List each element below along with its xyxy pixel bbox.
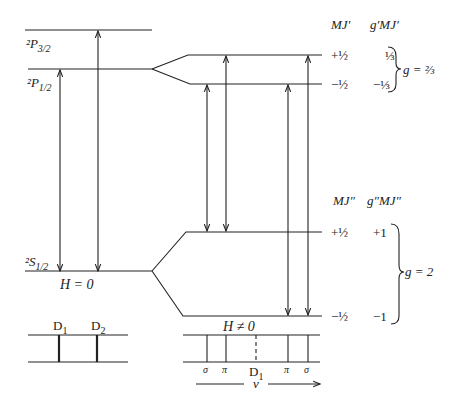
component-label-pi-2: π (284, 365, 289, 375)
level-label-p32: ²P3/2 (26, 37, 51, 54)
upper-gmj-plus: ⅓ (385, 49, 395, 62)
lower-gmj-plus: +1 (373, 226, 387, 239)
lower-g-value: g = 2 (405, 265, 433, 278)
lower-mj-minus: −½ (331, 310, 348, 323)
level-p12-minus (152, 69, 322, 84)
lower-gmj-minus: −1 (373, 310, 387, 323)
field-zero-label: H = 0 (60, 278, 94, 292)
level-label-p12: ²P1/2 (27, 76, 52, 93)
level-s12-minus (152, 271, 322, 316)
spectrum-label-d1: D1 (53, 319, 67, 336)
spectrum-label-d2: D2 (91, 319, 105, 336)
level-p12-plus (152, 55, 322, 69)
component-label-sigma-2: σ (304, 365, 309, 375)
upper-gmj-minus: −⅓ (373, 78, 390, 91)
level-label-s12: ²S1/2 (25, 255, 48, 272)
component-label-pi-1: π (222, 365, 227, 375)
upper-mj-plus: +½ (331, 49, 348, 62)
lower-brace (391, 224, 404, 324)
field-nonzero-label: H ≠ 0 (223, 320, 255, 334)
lower-mj-plus: +½ (331, 226, 348, 239)
level-s12-plus (152, 232, 322, 271)
component-label-sigma-1: σ (203, 365, 208, 375)
upper-header-mj: MJ′ (331, 18, 350, 31)
upper-mj-minus: −½ (331, 78, 348, 91)
upper-header-gmj: g′MJ′ (370, 18, 399, 31)
nu-axis-label: ν (253, 377, 259, 390)
lower-header-gmj: g″MJ″ (367, 194, 401, 207)
upper-g-value: g = ⅔ (403, 63, 435, 76)
lower-header-mj: MJ″ (333, 194, 355, 207)
